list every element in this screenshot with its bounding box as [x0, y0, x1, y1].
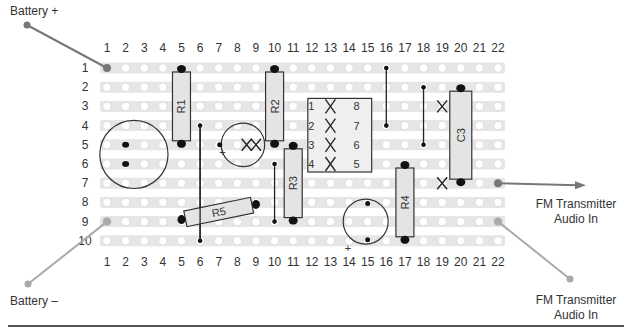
strip-hole	[308, 179, 316, 187]
strip-hole	[475, 160, 483, 168]
row-label-1: 1	[82, 61, 89, 75]
strip-hole	[252, 83, 260, 91]
strip-hole	[270, 237, 278, 245]
strip-hole	[494, 198, 502, 206]
battery-plus-label: Battery +	[10, 4, 58, 19]
row-label-3: 3	[82, 99, 89, 113]
column-label-top-18: 18	[417, 41, 431, 55]
ic-chip-body	[308, 98, 372, 172]
strip-hole	[159, 102, 167, 110]
ic-pin-label-7: 7	[353, 120, 359, 132]
strip-hole	[159, 217, 167, 225]
strip-hole	[438, 141, 446, 149]
battery-plus-terminal	[24, 22, 31, 29]
solder-pad	[177, 215, 185, 224]
strip-hole	[215, 121, 223, 129]
solder-pad	[400, 161, 409, 169]
column-label-top-4: 4	[160, 41, 167, 55]
strip-hole	[419, 179, 427, 187]
solder-dot	[272, 219, 277, 224]
strip-hole	[363, 217, 371, 225]
strip-hole	[159, 237, 167, 245]
strip-hole	[215, 102, 223, 110]
solder-pad	[400, 236, 409, 244]
strip-hole	[252, 237, 260, 245]
strip-hole	[326, 198, 334, 206]
strip-hole	[438, 237, 446, 245]
column-label-bottom-13: 13	[324, 255, 338, 269]
strip-hole	[475, 217, 483, 225]
fm-signal-label-line1: FM Transmitter	[526, 197, 626, 212]
capacitor-1-plus-sign: +	[219, 146, 225, 158]
strip-hole	[103, 102, 111, 110]
ic-pin-label-8: 8	[353, 100, 359, 112]
strip-hole	[363, 179, 371, 187]
strip-hole	[103, 179, 111, 187]
fm-ground-label-line1: FM Transmitter	[526, 293, 626, 308]
component-label-c3: C3	[455, 128, 467, 142]
strip-hole	[494, 121, 502, 129]
strip-hole	[289, 64, 297, 72]
strip-hole	[419, 237, 427, 245]
strip-hole	[475, 83, 483, 91]
strip-hole	[233, 237, 241, 245]
strip-hole	[438, 83, 446, 91]
column-label-bottom-9: 9	[253, 255, 260, 269]
strip-hole	[289, 121, 297, 129]
solder-pad	[252, 200, 260, 209]
capacitor-2-plus-sign: +	[345, 242, 351, 254]
battery-plus-pad	[103, 64, 111, 72]
strip-hole	[233, 217, 241, 225]
battery-minus-wire	[28, 222, 107, 284]
strip-hole	[363, 83, 371, 91]
component-label-r4: R4	[399, 195, 411, 209]
strip-hole	[382, 237, 390, 245]
strip-hole	[475, 179, 483, 187]
strip-hole	[233, 179, 241, 187]
strip-hole	[438, 64, 446, 72]
fm-ground-terminal	[567, 276, 574, 283]
solder-dot	[365, 201, 370, 206]
column-label-bottom-1: 1	[104, 255, 111, 269]
strip-hole	[401, 64, 409, 72]
strip-hole	[121, 102, 129, 110]
solder-pad	[289, 217, 298, 225]
strip-hole	[308, 217, 316, 225]
strip-hole	[140, 198, 148, 206]
column-label-top-22: 22	[491, 41, 505, 55]
strip-hole	[308, 64, 316, 72]
column-label-top-17: 17	[398, 41, 412, 55]
strip-hole	[177, 179, 185, 187]
strip-hole	[140, 102, 148, 110]
strip-hole	[326, 64, 334, 72]
ic-pin-label-1: 1	[308, 100, 314, 112]
solder-dot	[421, 85, 426, 90]
column-label-bottom-21: 21	[473, 255, 487, 269]
column-label-bottom-16: 16	[380, 255, 394, 269]
strip-hole	[196, 64, 204, 72]
strip-hole	[475, 102, 483, 110]
column-label-top-11: 11	[287, 41, 300, 55]
strip-hole	[494, 83, 502, 91]
column-label-top-7: 7	[215, 41, 222, 55]
strip-hole	[233, 141, 241, 149]
solder-pad	[122, 142, 129, 148]
column-label-top-16: 16	[380, 41, 394, 55]
strip-hole	[494, 64, 502, 72]
ic-pin-label-6: 6	[353, 139, 359, 151]
strip-hole	[326, 83, 334, 91]
fm-transmitter-ground-label: FM Transmitter Audio In	[526, 293, 626, 323]
strip-hole	[140, 64, 148, 72]
solder-pad	[270, 65, 279, 73]
column-label-top-20: 20	[454, 41, 468, 55]
stripboard-diagram: 1122334455667788991010111112121313141415…	[0, 0, 632, 328]
component-label-r1: R1	[175, 99, 187, 113]
bottom-divider	[8, 325, 624, 327]
strip-hole	[103, 141, 111, 149]
strip-hole	[438, 198, 446, 206]
solder-dot	[384, 123, 389, 128]
column-label-bottom-8: 8	[234, 255, 241, 269]
strip-hole	[308, 83, 316, 91]
strip-hole	[215, 237, 223, 245]
strip-hole	[475, 198, 483, 206]
